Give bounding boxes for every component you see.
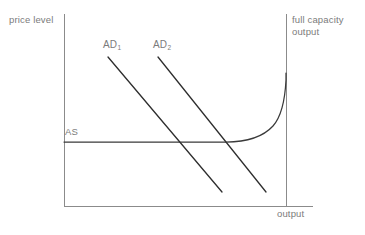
ad1-curve [108,57,222,192]
ad1-label-base: AD [103,39,117,50]
as-curve [64,73,286,142]
ad-as-diagram: price level full capacityoutput output A… [0,0,365,235]
full-capacity-label-line2: output [292,26,319,37]
x-axis-label: output [277,208,304,220]
ad2-label-base: AD [153,39,167,50]
ad1-curve-label: AD1 [103,39,121,50]
ad2-curve [158,57,266,192]
as-curve-label: AS [65,126,78,138]
full-capacity-label-line1: full capacity [292,14,344,25]
ad1-label-subscript: 1 [117,44,121,51]
ad2-label-subscript: 2 [167,44,171,51]
y-axis-label: price level [9,14,53,26]
ad2-curve-label: AD2 [153,39,171,50]
full-capacity-label: full capacityoutput [292,14,344,37]
